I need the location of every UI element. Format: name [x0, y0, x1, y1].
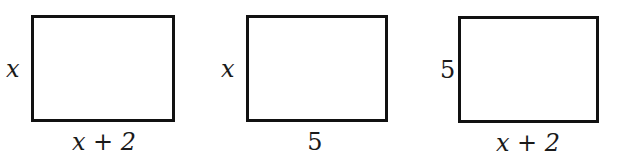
- rectangle-2-height-label: x: [221, 57, 235, 81]
- rectangle-2: [246, 15, 388, 122]
- rectangle-3-height-label: 5: [440, 58, 455, 82]
- rectangle-1: [31, 15, 175, 122]
- rectangle-2-width-label: 5: [307, 130, 322, 154]
- rectangle-1-width-label: x + 2: [72, 130, 136, 154]
- rectangle-3-width-label: x + 2: [496, 131, 560, 155]
- rectangle-1-height-label: x: [6, 57, 20, 81]
- rectangle-3: [458, 16, 599, 123]
